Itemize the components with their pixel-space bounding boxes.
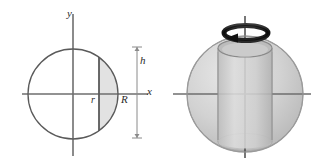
panel-cross-section: y x r R h — [0, 0, 163, 164]
figure-root: y x r R h — [0, 0, 326, 164]
axis-label-y-left: y — [67, 8, 72, 19]
cylinder-bore — [218, 48, 272, 148]
shaded-segment — [99, 40, 139, 150]
axis-label-x-left: x — [147, 86, 152, 97]
cross-section-svg — [0, 0, 163, 164]
panel-solid-of-revolution: y x — [163, 0, 326, 164]
solid-of-revolution-svg — [163, 0, 326, 164]
label-inner-radius-r: r — [91, 95, 95, 105]
label-outer-radius-R: R — [121, 94, 128, 105]
label-height-h: h — [140, 55, 146, 66]
rotation-ring — [224, 26, 268, 43]
cylinder-inner-shade — [222, 43, 268, 57]
